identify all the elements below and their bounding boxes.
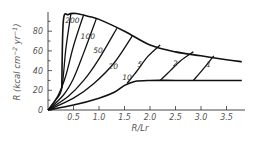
x-tick-label: 2.5 bbox=[169, 113, 182, 122]
curve-label-20: 20 bbox=[109, 62, 119, 71]
curve-label-50: 50 bbox=[93, 46, 103, 55]
x-tick-label: 0.5 bbox=[67, 113, 80, 122]
y-tick-label: 80 bbox=[33, 27, 43, 36]
y-tick-label: 60 bbox=[33, 47, 43, 56]
curve-label-100: 100 bbox=[81, 32, 96, 41]
y-tick-label: 0 bbox=[38, 106, 43, 115]
x-tick-label: 3.0 bbox=[195, 113, 208, 122]
curves bbox=[48, 13, 242, 110]
x-tick-label: 2.0 bbox=[144, 113, 157, 122]
curve-label-10: 10 bbox=[122, 73, 132, 82]
x-tick-label: 3.5 bbox=[220, 113, 233, 122]
envelope-curve bbox=[62, 13, 242, 88]
y-tick-label: 40 bbox=[33, 67, 43, 76]
y-axis-title: R (kcal cm−2 yr−1) bbox=[11, 23, 23, 100]
curve-label-2: 2 bbox=[173, 59, 178, 68]
chart: 020406080 0.51.01.52.02.53.03.5 20010050… bbox=[0, 0, 259, 146]
x-ticks: 0.51.01.52.02.53.03.5 bbox=[67, 106, 233, 122]
curve-200 bbox=[48, 13, 71, 110]
curve-labels: 200100502010521 bbox=[65, 16, 211, 82]
x-tick-label: 1.0 bbox=[93, 113, 106, 122]
y-ticks: 020406080 bbox=[33, 21, 52, 115]
envelope-curve bbox=[48, 80, 242, 110]
x-axis-title: R/Lr bbox=[132, 123, 150, 133]
curve-5 bbox=[127, 45, 160, 83]
y-tick-label: 20 bbox=[33, 86, 43, 95]
curve-label-5: 5 bbox=[137, 60, 142, 69]
curve-label-1: 1 bbox=[206, 60, 211, 69]
curve-label-200: 200 bbox=[65, 16, 80, 25]
x-tick-label: 1.5 bbox=[118, 113, 131, 122]
